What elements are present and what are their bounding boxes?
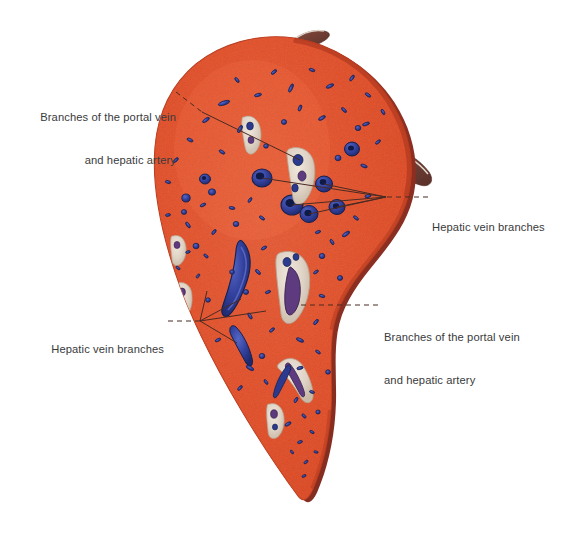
figure-canvas: Branches of the portal vein and hepatic … xyxy=(0,0,571,538)
label-line: and hepatic artery xyxy=(0,153,176,167)
label-line: and hepatic artery xyxy=(384,373,520,387)
label-line: Branches of the portal vein xyxy=(384,330,520,344)
label-portal-upper-left: Branches of the portal vein and hepatic … xyxy=(0,82,176,196)
label-portal-lower-right: Branches of the portal vein and hepatic … xyxy=(384,302,520,416)
label-line: Hepatic vein branches xyxy=(432,220,545,234)
label-line: Branches of the portal vein xyxy=(0,110,176,124)
label-hepatic-right: Hepatic vein branches xyxy=(432,192,545,263)
liver-illustration xyxy=(0,0,571,538)
label-line: Hepatic vein branches xyxy=(0,342,164,356)
label-hepatic-lower-left: Hepatic vein branches xyxy=(0,314,164,385)
